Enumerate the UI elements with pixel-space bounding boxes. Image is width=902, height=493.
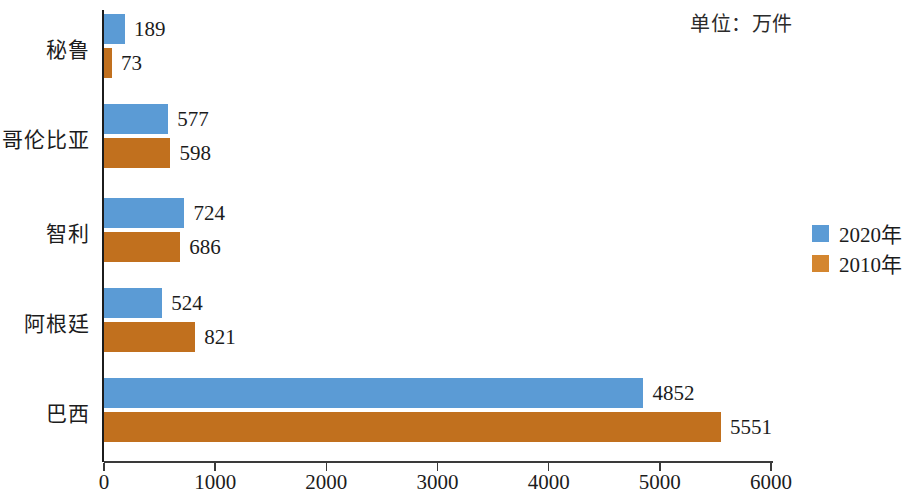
x-axis-tick-label: 2000 [305,470,347,493]
x-axis-tick-label: 4000 [528,470,570,493]
bar-value-label: 724 [184,201,225,226]
bar-2010年[interactable] [104,138,170,168]
category-label: 智利 [46,217,90,247]
legend-swatch-2010-icon [812,255,829,272]
chart-legend: 2020年 2010年 [812,218,902,278]
bar-row: 189 [104,14,771,44]
x-axis-tick-label: 5000 [639,470,681,493]
bar-2020年[interactable] [104,104,168,134]
bar-2020年[interactable] [104,198,184,228]
bar-2020年[interactable] [104,14,125,44]
bar-row: 598 [104,138,771,168]
bar-row: 5551 [104,412,771,442]
bar-value-label: 5551 [721,415,772,440]
bar-2010年[interactable] [104,232,180,262]
legend-item-2020[interactable]: 2020年 [812,218,902,248]
bar-2010年[interactable] [104,322,195,352]
x-axis-line [104,461,773,463]
bar-value-label: 686 [180,235,221,260]
bar-row: 524 [104,288,771,318]
bar-value-label: 577 [168,107,209,132]
bar-2020年[interactable] [104,378,643,408]
bar-value-label: 821 [195,325,236,350]
bar-2010年[interactable] [104,48,112,78]
bar-value-label: 524 [162,291,203,316]
bar-row: 4852 [104,378,771,408]
category-label: 阿根廷 [24,307,90,337]
category-label: 哥伦比亚 [2,123,90,153]
bar-value-label: 4852 [643,381,694,406]
bar-value-label: 598 [170,141,211,166]
bar-row: 724 [104,198,771,228]
bar-2020年[interactable] [104,288,162,318]
legend-swatch-2020-icon [812,225,829,242]
bar-row: 821 [104,322,771,352]
bar-row: 577 [104,104,771,134]
category-label: 秘鲁 [46,33,90,63]
x-axis-tick-label: 0 [99,470,110,493]
legend-item-2010[interactable]: 2010年 [812,248,902,278]
bar-row: 73 [104,48,771,78]
bar-value-label: 189 [125,17,166,42]
x-axis-tick-label: 3000 [417,470,459,493]
bar-value-label: 73 [112,51,142,76]
legend-label-2020: 2020年 [839,218,902,248]
x-axis-tick-label: 1000 [194,470,236,493]
bar-row: 686 [104,232,771,262]
bar-2010年[interactable] [104,412,721,442]
x-axis-tick-label: 6000 [750,470,792,493]
category-label: 巴西 [46,397,90,427]
legend-label-2010: 2010年 [839,248,902,278]
